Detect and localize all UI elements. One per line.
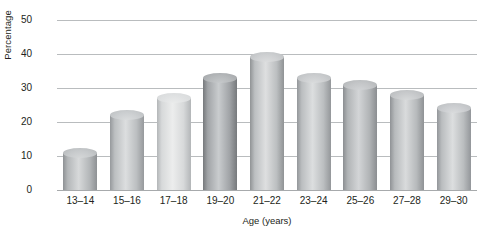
y-tick-label-20: 20 <box>0 117 32 127</box>
bar-cylinder-29–30 <box>437 103 471 190</box>
bar-top-ellipse <box>390 90 424 100</box>
x-tick-label-17–18: 17–18 <box>150 196 197 206</box>
x-axis-title: Age (years) <box>57 215 477 226</box>
x-tick-label-25–26: 25–26 <box>337 196 384 206</box>
bar-cylinder-21–22 <box>250 52 284 190</box>
y-tick-label-40: 40 <box>0 49 32 59</box>
bar-top-ellipse <box>63 148 97 158</box>
x-tick-label-29–30: 29–30 <box>430 196 477 206</box>
bars-series <box>57 20 477 190</box>
bar-body <box>203 78 237 190</box>
bar <box>343 80 377 190</box>
bar-top-ellipse <box>203 73 237 83</box>
bar-cylinder-15–16 <box>110 110 144 190</box>
bar <box>390 90 424 190</box>
y-tick-label-50: 50 <box>0 15 32 25</box>
bar-body <box>437 108 471 190</box>
y-axis-title: Percentage <box>2 0 16 90</box>
x-tick-label-19–20: 19–20 <box>197 196 244 206</box>
x-tick-label-15–16: 15–16 <box>104 196 151 206</box>
x-tick-label-23–24: 23–24 <box>290 196 337 206</box>
x-tick-label-21–22: 21–22 <box>244 196 291 206</box>
bar-chart: Percentage 01020304050 13–1415–1617–1819… <box>0 0 495 237</box>
bar-body <box>297 78 331 190</box>
gridline-0 <box>57 190 477 191</box>
y-tick-label-30: 30 <box>0 83 32 93</box>
x-axis-ticks: 13–1415–1617–1819–2021–2223–2425–2627–28… <box>57 196 477 212</box>
bar-cylinder-13–14 <box>63 148 97 190</box>
bar <box>157 93 191 190</box>
bar-body <box>250 57 284 190</box>
bar-cylinder-19–20 <box>203 73 237 190</box>
bar-body <box>157 98 191 190</box>
bar <box>250 52 284 190</box>
y-tick-label-0: 0 <box>0 185 32 195</box>
y-tick-label-10: 10 <box>0 151 32 161</box>
bar-cylinder-23–24 <box>297 73 331 190</box>
bar-body <box>343 85 377 190</box>
bar-body <box>390 95 424 190</box>
bar-cylinder-17–18 <box>157 93 191 190</box>
x-tick-label-13–14: 13–14 <box>57 196 104 206</box>
bar-top-ellipse <box>343 80 377 90</box>
bar <box>437 103 471 190</box>
bar-body <box>110 115 144 190</box>
bar-cylinder-25–26 <box>343 80 377 190</box>
plot-area: 01020304050 <box>57 20 477 190</box>
bar <box>63 148 97 190</box>
bar-cylinder-27–28 <box>390 90 424 190</box>
bar-body <box>63 153 97 190</box>
x-tick-label-27–28: 27–28 <box>384 196 431 206</box>
bar <box>110 110 144 190</box>
bar <box>203 73 237 190</box>
bar-top-ellipse <box>297 73 331 83</box>
bar <box>297 73 331 190</box>
